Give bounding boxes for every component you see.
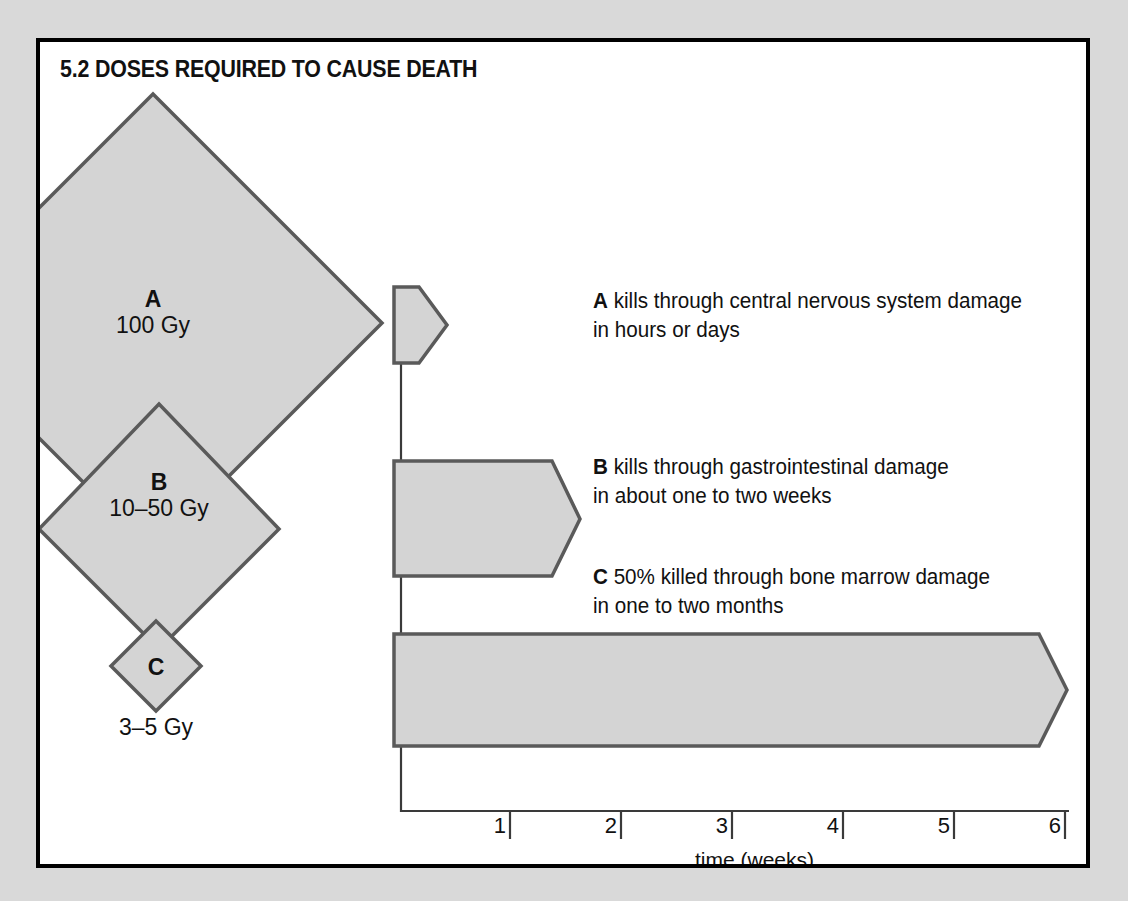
caption-a-line1: A kills through central nervous system d… <box>593 287 1022 316</box>
caption-a-line2: in hours or days <box>593 316 1022 345</box>
dose-value-c: 3–5 Gy <box>76 715 236 741</box>
caption-c-text1: 50% killed through bone marrow damage <box>608 565 990 589</box>
time-bar-b <box>394 461 580 576</box>
caption-c: C 50% killed through bone marrow damage … <box>593 563 990 620</box>
caption-a: A kills through central nervous system d… <box>593 287 1022 344</box>
time-bar-a <box>394 287 447 363</box>
caption-b-line2: in about one to two weeks <box>593 482 949 511</box>
figure-panel: 5.2 DOSES REQUIRED TO CAUSE DEATH <box>36 38 1090 868</box>
axis-tick-label-4: 4 <box>793 813 839 839</box>
caption-c-key: C <box>593 565 608 589</box>
dose-value-label-c: 3–5 Gy <box>76 715 236 741</box>
caption-c-line1: C 50% killed through bone marrow damage <box>593 563 990 592</box>
dose-key-c: C <box>76 655 236 681</box>
dose-label-a: A 100 Gy <box>73 287 233 339</box>
caption-b-line1: B kills through gastrointestinal damage <box>593 453 949 482</box>
axis-tick-label-2: 2 <box>571 813 617 839</box>
axis-tick-label-3: 3 <box>682 813 728 839</box>
dose-value-a: 100 Gy <box>73 313 233 339</box>
caption-b: B kills through gastrointestinal damage … <box>593 453 949 510</box>
caption-a-text1: kills through central nervous system dam… <box>608 289 1022 313</box>
axis-title: time (weeks) <box>695 848 814 868</box>
caption-b-key: B <box>593 455 608 479</box>
dose-key-b: B <box>79 470 239 496</box>
caption-c-line2: in one to two months <box>593 592 990 621</box>
caption-a-key: A <box>593 289 608 313</box>
dose-label-b: B 10–50 Gy <box>79 470 239 522</box>
dose-key-a: A <box>73 287 233 313</box>
time-bar-c <box>394 634 1067 746</box>
axis-tick-label-5: 5 <box>904 813 950 839</box>
chart-stage: A 100 Gy B 10–50 Gy C 3–5 Gy A kills thr… <box>40 42 1090 868</box>
dose-value-b: 10–50 Gy <box>79 496 239 522</box>
caption-b-text1: kills through gastrointestinal damage <box>608 455 949 479</box>
axis-tick-label-6: 6 <box>1015 813 1061 839</box>
dose-key-label-c: C <box>76 655 236 681</box>
axis-tick-label-1: 1 <box>460 813 506 839</box>
